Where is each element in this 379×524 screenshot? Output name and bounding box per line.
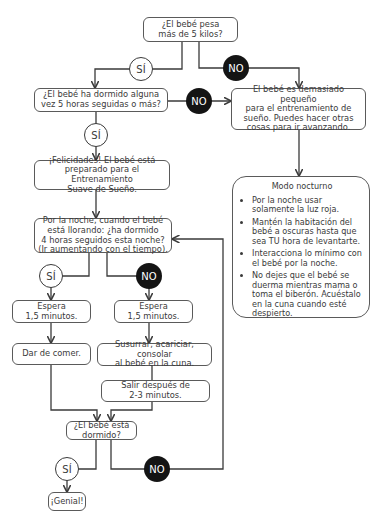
- night-mode-item: Mantén la habitación del bebé a oscuras …: [252, 218, 363, 247]
- yes-decision-3: SÍ: [39, 264, 63, 288]
- yes-decision-2: SÍ: [84, 123, 108, 147]
- leave-box: Salir después de 2-3 minutos.: [101, 380, 210, 402]
- yes-decision-1: SÍ: [129, 57, 153, 81]
- congrats-box: ¡Felicidades! El bebé está preparado par…: [34, 160, 170, 190]
- night-mode-list: Por la noche usar solamente la luz roja.…: [241, 196, 363, 319]
- no-decision-2: NO: [186, 88, 212, 114]
- wait-yes-box: Espera 1,5 minutos.: [12, 300, 91, 323]
- no-decision-3: NO: [136, 263, 162, 289]
- night-mode-box: Modo nocturno Por la noche usar solament…: [232, 176, 370, 318]
- wait-no-box: Espera 1,5 minutos.: [114, 300, 193, 323]
- soothe-box: Susurrar, acariciar, consolar al bebé en…: [97, 343, 212, 366]
- night-mode-title: Modo nocturno: [241, 182, 363, 192]
- night-mode-item: Por la noche usar solamente la luz roja.: [252, 196, 363, 215]
- weight-question-box: ¿El bebé pesa más de 5 kilos?: [143, 17, 238, 42]
- no-decision-1: NO: [223, 55, 249, 81]
- yes-decision-4: SÍ: [55, 457, 79, 481]
- too-small-box: El bebé es demasiado pequeño para el ent…: [231, 88, 366, 130]
- night-question-box: Por la noche, cuando el bebé está lloran…: [34, 218, 172, 253]
- night-mode-item: No dejes que el bebé se duerma mientras …: [252, 271, 363, 319]
- asleep-question-box: ¿El bebé está dormido?: [66, 421, 137, 440]
- night-mode-item: Interacciona lo mínimo con el bebé por l…: [252, 249, 363, 268]
- flowchart: ¿El bebé pesa más de 5 kilos? SÍ NO ¿El …: [0, 0, 379, 524]
- slept-5h-question-box: ¿El bebé ha dormido alguna vez 5 horas s…: [34, 88, 168, 112]
- no-decision-4: NO: [144, 456, 170, 482]
- feed-box: Dar de comer.: [12, 343, 91, 365]
- great-box: ¡Genial!: [48, 492, 86, 511]
